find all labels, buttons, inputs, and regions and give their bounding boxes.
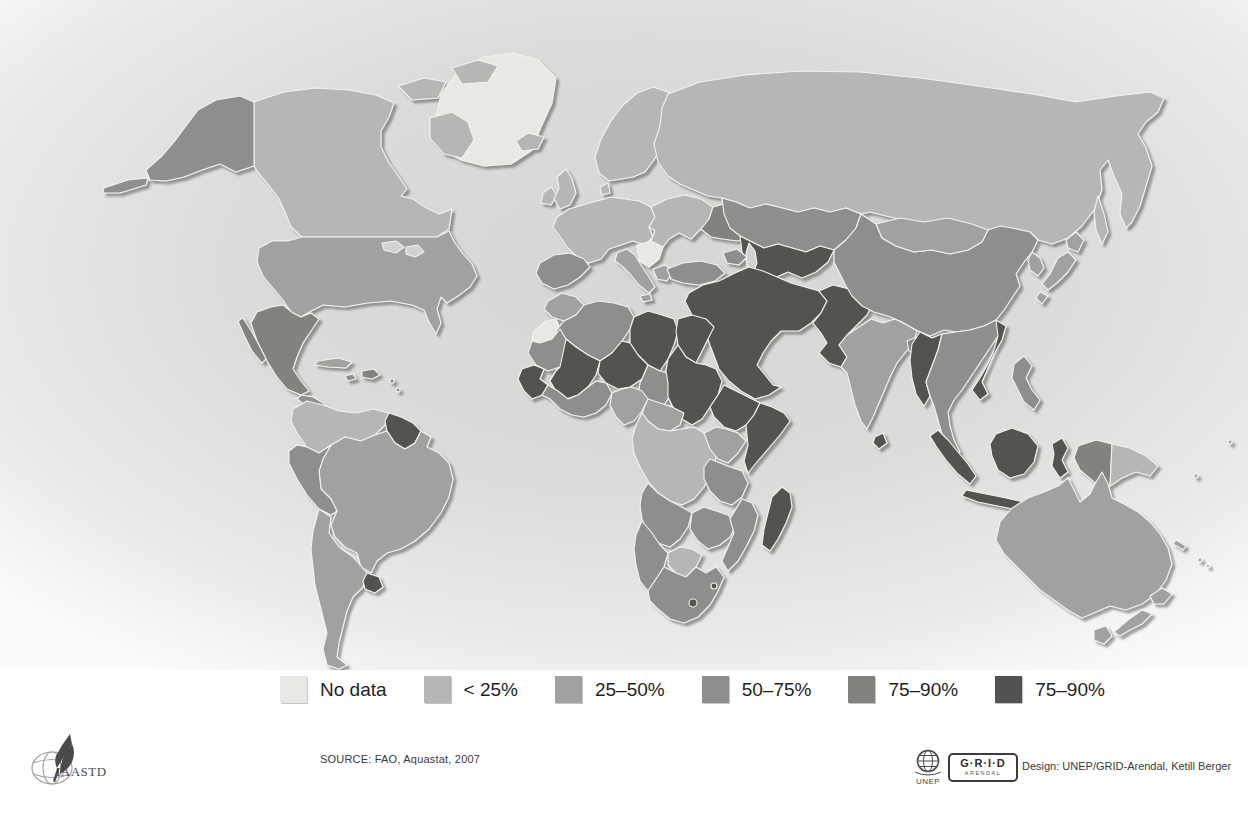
legend-item-no_data: No data (280, 676, 387, 703)
legend-label-no_data: No data (320, 679, 387, 701)
unep-label: UNEP (912, 777, 944, 786)
legend-item-lt_25: < 25% (424, 676, 518, 703)
legend-swatch-p90_plus (995, 676, 1022, 703)
legend-item-p75_90: 75–90% (848, 676, 958, 703)
design-credit: Design: UNEP/GRID-Arendal, Ketill Berger (1022, 760, 1231, 772)
legend-label-lt_25: < 25% (464, 679, 518, 701)
iaastd-logo (26, 728, 136, 794)
iaastd-label: IAASTD (56, 764, 107, 780)
region-fiji-1 (1198, 558, 1202, 562)
grid-sublabel: ARENDAL (950, 770, 1016, 776)
legend-label-p90_plus: 75–90% (1035, 679, 1105, 701)
source-text: SOURCE: FAO, Aquastat, 2007 (320, 753, 480, 765)
legend-swatch-p25_50 (555, 676, 582, 703)
grid-arendal-logo: G·R·I·D ARENDAL (948, 753, 1018, 782)
unep-logo: UNEP (912, 748, 944, 784)
region-carib-1 (390, 379, 394, 383)
region-pacific-1 (1228, 440, 1232, 444)
grid-label: G·R·I·D (950, 756, 1016, 770)
legend-swatch-lt_25 (424, 676, 451, 703)
map-legend: No data< 25%25–50%50–75%75–90%75–90% (280, 676, 1142, 703)
legend-item-p90_plus: 75–90% (995, 676, 1105, 703)
legend-swatch-p75_90 (848, 676, 875, 703)
legend-label-p25_50: 25–50% (595, 679, 665, 701)
region-fiji-2 (1206, 564, 1209, 567)
region-lesotho (689, 599, 697, 607)
world-map (0, 0, 1248, 670)
legend-swatch-p50_75 (702, 676, 729, 703)
figure-page: No data< 25%25–50%50–75%75–90%75–90% IAA… (0, 0, 1248, 823)
legend-label-p75_90: 75–90% (888, 679, 958, 701)
region-swaziland (711, 583, 717, 589)
region-sicily (640, 294, 652, 302)
legend-label-p50_75: 50–75% (742, 679, 812, 701)
region-carib-2 (396, 388, 400, 392)
region-pacific-2 (1194, 474, 1198, 478)
legend-item-p50_75: 50–75% (702, 676, 812, 703)
legend-item-p25_50: 25–50% (555, 676, 665, 703)
unep-emblem-icon (913, 748, 943, 776)
legend-swatch-no_data (280, 676, 307, 703)
